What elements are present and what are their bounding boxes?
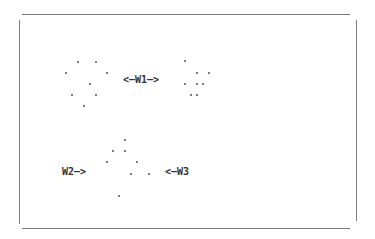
dot	[71, 94, 73, 96]
dot	[148, 173, 150, 175]
frame-left-border	[19, 20, 20, 224]
dot	[106, 161, 108, 163]
frame-top-border	[22, 14, 350, 15]
dot	[196, 83, 198, 85]
dot	[112, 150, 114, 152]
label-w2: W2—>	[62, 166, 86, 178]
label-w3: <—W3	[165, 166, 189, 178]
dot	[106, 72, 108, 74]
dot	[196, 94, 198, 96]
dot	[65, 72, 67, 74]
dot	[95, 94, 97, 96]
dot	[196, 72, 198, 74]
dot	[136, 161, 138, 163]
dot	[130, 173, 132, 175]
dot	[124, 139, 126, 141]
label-w1: <—W1—>	[123, 74, 159, 86]
frame-right-border	[356, 20, 357, 221]
dot	[83, 105, 85, 107]
dot	[208, 72, 210, 74]
dot	[202, 83, 204, 85]
dot	[89, 83, 91, 85]
dot	[184, 60, 186, 62]
dot	[184, 83, 186, 85]
dot	[190, 94, 192, 96]
frame-bottom-border	[22, 228, 350, 229]
dot	[118, 195, 120, 197]
dot	[124, 150, 126, 152]
dot	[95, 61, 97, 63]
dot	[77, 61, 79, 63]
